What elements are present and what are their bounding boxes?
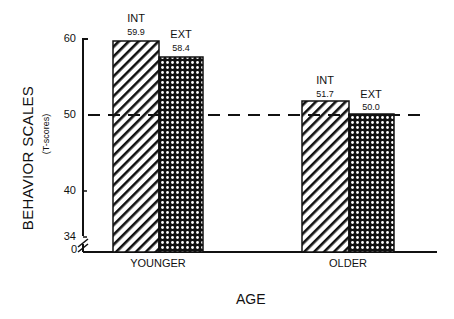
bar-older-ext	[349, 114, 394, 252]
y-tick-40: 40	[46, 184, 76, 196]
y-tick-50: 50	[46, 108, 76, 120]
bar-value-younger-int: 59.9	[111, 27, 161, 37]
category-younger: YOUNGER	[108, 257, 208, 269]
bar-younger-int	[113, 41, 159, 252]
bar-label-younger-int: INT	[111, 12, 161, 24]
bar-value-older-ext: 50.0	[346, 102, 396, 112]
chart-canvas	[0, 0, 454, 319]
bar-label-older-ext: EXT	[346, 88, 396, 100]
y-tick-0: 0	[47, 243, 77, 255]
y-axis	[78, 38, 88, 252]
bar-value-older-int: 51.7	[300, 89, 350, 99]
y-tick-34: 34	[46, 230, 76, 242]
x-axis-label: AGE	[236, 291, 266, 307]
bar-younger-ext	[159, 57, 203, 252]
bar-value-younger-ext: 58.4	[156, 43, 206, 53]
category-older: OLDER	[298, 257, 398, 269]
bar-label-younger-ext: EXT	[156, 28, 206, 40]
y-axis-label: BEHAVIOR SCALES	[19, 86, 36, 230]
bar-label-older-int: INT	[300, 74, 350, 86]
bar-older-int	[302, 101, 349, 252]
y-tick-60: 60	[46, 32, 76, 44]
